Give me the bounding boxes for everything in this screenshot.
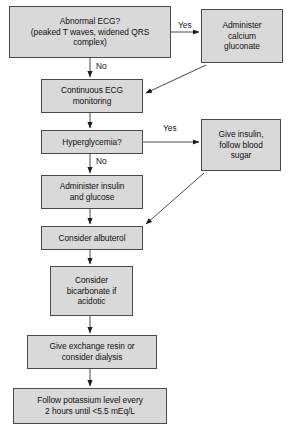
node-consider-bicarbonate-if-acidotic[interactable]: Consider bicarbonate if acidotic <box>50 266 133 316</box>
node-administer-calcium-gluconate[interactable]: Administer calcium gluconate <box>201 9 283 63</box>
edge-calcium-to-continuous <box>146 65 206 93</box>
node-administer-insulin-and-glucose[interactable]: Administer insulin and glucose <box>41 175 143 209</box>
edge-label-no-abnormal-ecg: No <box>96 62 107 71</box>
edge-label-no-hyperglycemia: No <box>96 157 107 166</box>
node-give-insulin-follow-blood-sugar[interactable]: Give insulin, follow blood sugar <box>201 119 281 171</box>
node-continuous-ecg-monitoring[interactable]: Continuous ECG monitoring <box>41 79 143 113</box>
node-give-exchange-resin-or-consider-dialysis[interactable]: Give exchange resin or consider dialysis <box>27 335 157 369</box>
flowchart-canvas: Abnormal ECG? (peaked T waves, widened Q… <box>0 0 291 431</box>
node-consider-albuterol[interactable]: Consider albuterol <box>41 226 143 250</box>
edge-label-yes-abnormal-ecg: Yes <box>178 21 192 30</box>
node-hyperglycemia[interactable]: Hyperglycemia? <box>41 130 143 154</box>
node-abnormal-ecg[interactable]: Abnormal ECG? (peaked T waves, widened Q… <box>9 6 171 58</box>
node-follow-potassium-level[interactable]: Follow potassium level every 2 hours unt… <box>13 388 167 424</box>
edge-give-insulin-to-albuterol <box>146 173 204 224</box>
edge-label-yes-hyperglycemia: Yes <box>163 124 177 133</box>
